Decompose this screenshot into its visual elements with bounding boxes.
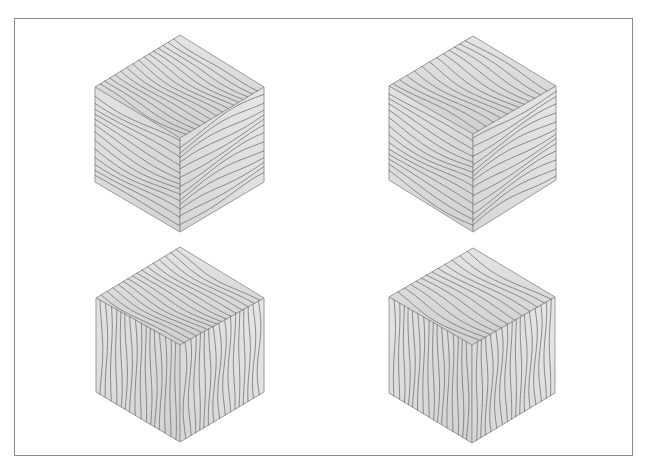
cube-bottom-right [389, 248, 555, 443]
cube-bottom-left [96, 247, 264, 442]
wood-grain-cubes-diagram [0, 0, 647, 468]
cube-top-left [95, 35, 264, 232]
cube-top-right [389, 36, 556, 232]
